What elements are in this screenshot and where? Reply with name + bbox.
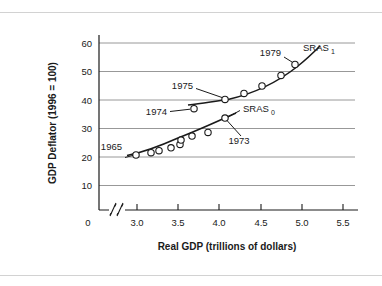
data-point-1968: [168, 145, 174, 151]
label-1975: 1975: [172, 80, 193, 91]
x-tick-label-4.0: 4.0: [212, 217, 225, 228]
data-point-1971: [189, 133, 195, 139]
x-tick-label-3.0: 3.0: [130, 217, 143, 228]
x-tick-label-3.5: 3.5: [171, 217, 184, 228]
y-tick-label-30: 30: [81, 123, 92, 134]
data-point-1979: [292, 61, 298, 67]
y-tick-label-60: 60: [81, 38, 92, 49]
sras1-data-points: [222, 61, 298, 102]
label-sras1: SRAS 1: [303, 42, 335, 55]
label-sras0-text: SRAS: [243, 103, 269, 114]
label-sras0: SRAS 0: [243, 103, 275, 116]
label-sras1-subscript: 1: [331, 48, 335, 55]
label-1965: 1965: [101, 141, 122, 152]
data-point-1978: [278, 72, 284, 78]
figure-container: 60 50 40 30 20 10 0 3.0 3.5 4.0 4.5 5.0 …: [0, 0, 382, 286]
data-point-1974: [191, 106, 197, 112]
y-tick-label-40: 40: [81, 95, 92, 106]
y-axis-label: GDP Deflator (1996 = 100): [47, 62, 58, 184]
sras0-data-points: [133, 115, 228, 158]
x-tick-labels: 0 3.0 3.5 4.0 4.5 5.0 5.5: [85, 217, 349, 228]
x-origin-label: 0: [85, 217, 90, 228]
x-tick-label-5.5: 5.5: [336, 217, 349, 228]
data-point-1972: [205, 129, 211, 135]
y-tick-label-50: 50: [81, 66, 92, 77]
data-point-1965: [133, 152, 139, 158]
data-point-1966: [148, 150, 154, 156]
data-point-1976: [241, 90, 247, 96]
x-tick-label-5.0: 5.0: [295, 217, 308, 228]
data-point-1967: [156, 148, 162, 154]
y-tick-label-20: 20: [81, 152, 92, 163]
sras0-curve: [127, 113, 236, 156]
data-point-1970: [178, 137, 184, 143]
label-sras0-subscript: 0: [271, 109, 275, 116]
label-1979: 1979: [260, 47, 281, 58]
x-axis-label: Real GDP (trillions of dollars): [158, 241, 297, 252]
label-sras1-text: SRAS: [303, 42, 329, 53]
label-1974: 1974: [146, 106, 167, 117]
data-point-1975: [222, 96, 228, 102]
y-tick-label-10: 10: [81, 180, 92, 191]
chart-svg: 60 50 40 30 20 10 0 3.0 3.5 4.0 4.5 5.0 …: [0, 0, 382, 286]
data-point-1977: [259, 83, 265, 89]
label-1973: 1973: [228, 135, 249, 146]
leader-1974: [170, 109, 190, 111]
leader-1979: [284, 57, 292, 62]
x-tick-marks: [137, 204, 343, 210]
y-tick-labels: 60 50 40 30 20 10: [81, 38, 92, 192]
leader-sras0: [228, 111, 240, 118]
gridlines: [99, 43, 355, 186]
sras1-curve: [188, 46, 320, 105]
x-tick-label-4.5: 4.5: [254, 217, 267, 228]
leader-1975: [196, 89, 222, 98]
